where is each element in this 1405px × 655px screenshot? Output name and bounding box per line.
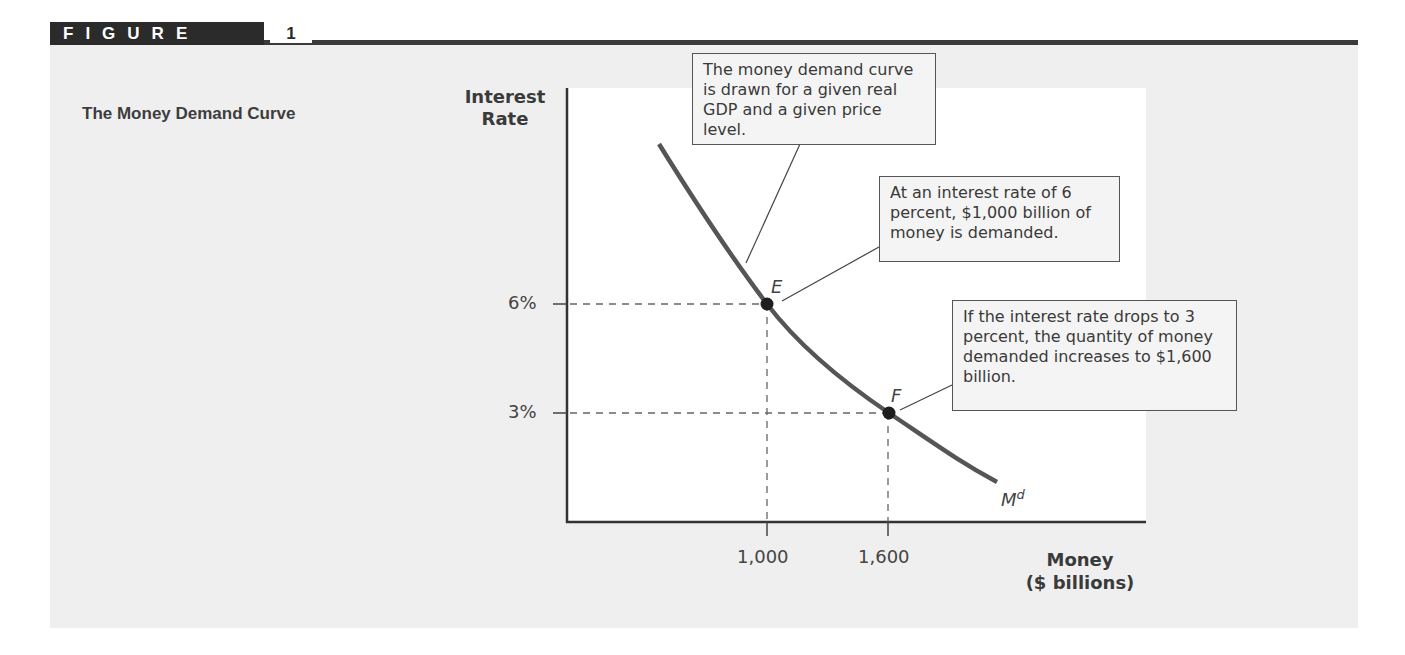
leader-note1 xyxy=(746,144,800,263)
note-given-gdp: The money demand curve is drawn for a gi… xyxy=(692,53,936,145)
point-e xyxy=(761,298,774,311)
x-tick-label-1600: 1,600 xyxy=(858,546,910,567)
leader-note2 xyxy=(782,247,879,301)
note-six-percent: At an interest rate of 6 percent, $1,000… xyxy=(879,176,1120,262)
curve-label: Md xyxy=(1001,487,1025,510)
point-f xyxy=(883,407,896,420)
note-three-percent: If the interest rate drops to 3 percent,… xyxy=(952,300,1237,411)
point-e-label: E xyxy=(771,276,782,297)
y-tick-label-6: 6% xyxy=(508,292,537,313)
x-tick-label-1000: 1,000 xyxy=(737,546,789,567)
curve-label-sup: d xyxy=(1017,487,1025,502)
leader-note3 xyxy=(900,385,952,410)
curve-label-base: M xyxy=(1001,489,1017,510)
y-tick-label-3: 3% xyxy=(508,401,537,422)
point-f-label: F xyxy=(891,385,901,406)
